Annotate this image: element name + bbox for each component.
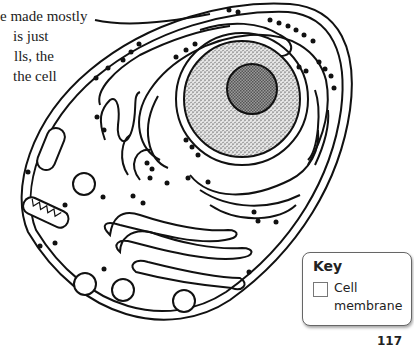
legend-key: Key Cell membrane — [302, 252, 412, 326]
legend-title: Key — [313, 258, 342, 274]
mitochondrion — [20, 195, 71, 231]
legend-item-label: Cell membrane — [334, 279, 404, 315]
cell-membrane-swatch-checkbox[interactable] — [313, 282, 328, 297]
ribosomes — [26, 8, 337, 275]
page-number: 117 — [377, 334, 402, 347]
nucleolus — [227, 64, 277, 114]
golgi-apparatus — [105, 213, 252, 289]
